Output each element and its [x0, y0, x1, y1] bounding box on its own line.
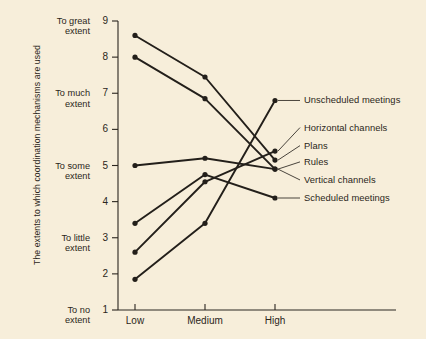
y-category-label-line2: extent — [34, 26, 90, 36]
y-tick-label: 6 — [94, 123, 108, 134]
y-tick-label: 3 — [94, 232, 108, 243]
y-category-label-line2: extent — [34, 99, 90, 109]
series-label-4: Vertical channels — [304, 174, 376, 185]
data-point — [272, 148, 277, 153]
y-category-label-line2: extent — [34, 171, 90, 181]
y-category-label-line1: To no — [34, 305, 90, 315]
series-group — [132, 33, 277, 282]
data-point — [132, 250, 137, 255]
data-point — [132, 55, 137, 60]
chart-container: The extents to which coordination mechan… — [0, 0, 426, 339]
y-tick-label: 5 — [94, 160, 108, 171]
y-category-label: To littleextent — [34, 233, 90, 254]
series-line-3 — [135, 57, 275, 169]
y-category-label-line2: extent — [34, 243, 90, 253]
series-label-3: Rules — [304, 156, 328, 167]
series-label-0: Unscheduled meetings — [304, 94, 400, 105]
data-point — [272, 167, 277, 172]
y-category-label: To noextent — [34, 305, 90, 326]
data-point — [202, 172, 207, 177]
y-category-label: To someextent — [34, 161, 90, 182]
data-point — [132, 277, 137, 282]
leader-line-3 — [278, 162, 300, 169]
series-label-2: Plans — [304, 140, 328, 151]
data-point — [272, 195, 277, 200]
data-point — [272, 157, 277, 162]
x-tick-label-high: High — [245, 315, 305, 326]
leader-lines-group — [278, 100, 300, 198]
series-line-0 — [135, 100, 275, 279]
y-category-label-line1: To great — [34, 16, 90, 26]
y-category-label-line2: extent — [34, 315, 90, 325]
data-point — [202, 74, 207, 79]
x-tick-label-low: Low — [105, 315, 165, 326]
y-category-label-line1: To little — [34, 233, 90, 243]
y-tick-label: 7 — [94, 87, 108, 98]
y-tick-label: 2 — [94, 268, 108, 279]
y-tick-label: 8 — [94, 51, 108, 62]
y-tick-label: 4 — [94, 196, 108, 207]
y-category-label-line1: To some — [34, 161, 90, 171]
series-label-5: Scheduled meetings — [304, 192, 390, 203]
y-tick-label: 1 — [94, 304, 108, 315]
data-point — [272, 98, 277, 103]
data-point — [132, 221, 137, 226]
x-tick-label-medium: Medium — [175, 315, 235, 326]
data-point — [202, 96, 207, 101]
data-point — [202, 156, 207, 161]
y-category-label: To muchextent — [34, 88, 90, 109]
data-point — [132, 33, 137, 38]
leader-line-4 — [278, 169, 300, 180]
data-point — [202, 221, 207, 226]
y-category-label-line1: To much — [34, 88, 90, 98]
y-tick-label: 9 — [94, 15, 108, 26]
series-label-1: Horizontal channels — [304, 122, 387, 133]
data-point — [202, 179, 207, 184]
data-point — [132, 163, 137, 168]
y-category-label: To greatextent — [34, 16, 90, 37]
